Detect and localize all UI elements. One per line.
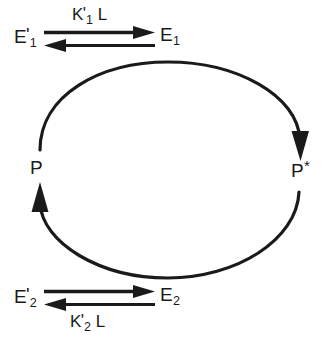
species-label-e2-prime: E'2 xyxy=(14,285,37,309)
k2-ligand: L xyxy=(96,312,106,331)
p-star-asterisk: * xyxy=(304,157,310,174)
rate-constant-label-k2: K'2L xyxy=(70,312,106,334)
species-label-e2: E2 xyxy=(160,285,180,308)
bottom-equilibrium-arrows xyxy=(44,285,155,311)
top-reverse-arrow xyxy=(44,39,155,52)
cycle-bottom-arc xyxy=(32,182,300,278)
cycle-top-arc xyxy=(40,62,309,161)
p-star-base: P xyxy=(291,160,304,181)
e2-subscript: 2 xyxy=(173,294,180,308)
k2-base: K xyxy=(70,312,82,331)
p-base: P xyxy=(30,157,43,178)
e2-base: E xyxy=(160,284,173,305)
k1-subscript: 1 xyxy=(86,13,93,27)
e1-prime-subscript: 1 xyxy=(30,36,37,50)
species-label-p: P xyxy=(30,158,43,177)
bottom-reverse-arrow xyxy=(44,298,155,311)
cycle-diagram: E'1 E1 K'1L E'2 E2 K'2L P P* xyxy=(0,0,334,342)
k2-subscript: 2 xyxy=(84,320,91,334)
k1-base: K xyxy=(72,5,84,24)
top-forward-arrow xyxy=(44,26,155,39)
bottom-arc-arrowhead xyxy=(32,182,49,212)
species-label-e1-prime: E'1 xyxy=(14,25,37,49)
e1-subscript: 1 xyxy=(173,34,180,48)
bottom-forward-arrow xyxy=(44,285,155,298)
species-label-p-star: P* xyxy=(291,158,310,180)
species-label-e1: E1 xyxy=(160,25,180,48)
e1-base: E xyxy=(160,24,173,45)
top-equilibrium-arrows xyxy=(44,26,155,52)
k1-ligand: L xyxy=(98,5,108,24)
rate-constant-label-k1: K'1L xyxy=(72,5,108,27)
e2-prime-subscript: 2 xyxy=(30,296,37,310)
